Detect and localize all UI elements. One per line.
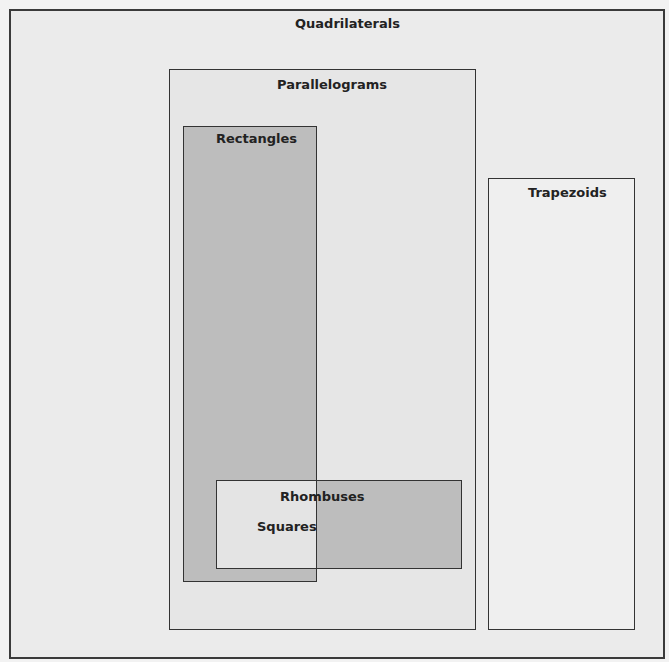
squares-label: Squares — [257, 519, 317, 534]
parallelograms-label: Parallelograms — [277, 77, 387, 92]
rectangles-label: Rectangles — [216, 131, 297, 146]
trapezoids-set — [488, 178, 635, 630]
rhombuses-label: Rhombuses — [280, 489, 365, 504]
trapezoids-label: Trapezoids — [528, 185, 607, 200]
quadrilaterals-label: Quadrilaterals — [295, 16, 400, 31]
